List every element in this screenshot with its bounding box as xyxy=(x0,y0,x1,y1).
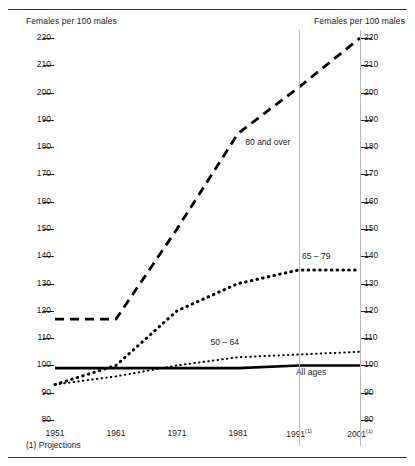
chart-plot-area: 2202202102102002001901901801801701701601… xyxy=(55,38,360,420)
chart-series-layer xyxy=(55,38,360,420)
right-axis-caption: Females per 100 males xyxy=(314,16,405,26)
y-tick-label-l-130: 130 xyxy=(37,279,51,288)
chart-footnote: (1) Projections xyxy=(26,440,81,450)
y-tick-label-l-150: 150 xyxy=(37,224,51,233)
left-axis-caption: Females per 100 males xyxy=(26,16,117,26)
y-tick-label-l-120: 120 xyxy=(37,306,51,315)
y-tick-label-r-220: 220 xyxy=(364,33,378,42)
y-tick-label-l-110: 110 xyxy=(37,333,51,342)
series-label-all-ages: All ages xyxy=(296,367,326,377)
series-label-80-and-over: 80 and over xyxy=(245,137,290,147)
y-tick-label-r-140: 140 xyxy=(364,251,378,260)
reference-line-1991 xyxy=(299,30,300,446)
y-tick-label-r-90: 90 xyxy=(364,388,373,397)
y-tick-label-l-170: 170 xyxy=(37,169,51,178)
y-tick-label-r-80: 80 xyxy=(364,415,373,424)
series-line-80-and-over xyxy=(55,38,360,319)
y-tick-label-l-200: 200 xyxy=(37,88,51,97)
y-tick-label-r-190: 190 xyxy=(364,115,378,124)
x-tick-label-1961: 1961 xyxy=(107,428,126,438)
y-tick-label-r-200: 200 xyxy=(364,88,378,97)
y-tick-label-r-180: 180 xyxy=(364,142,378,151)
y-tick-label-r-150: 150 xyxy=(364,224,378,233)
y-tick-label-l-190: 190 xyxy=(37,115,51,124)
x-tick-label-1971: 1971 xyxy=(168,428,187,438)
series-label-50-64: 50 – 64 xyxy=(211,337,239,347)
reference-line-2001 xyxy=(360,30,361,446)
y-tick-label-l-160: 160 xyxy=(37,197,51,206)
series-label-65-79: 65 – 79 xyxy=(302,251,330,261)
y-tick-label-r-170: 170 xyxy=(364,169,378,178)
y-tick-label-r-100: 100 xyxy=(364,360,378,369)
y-tick-label-l-140: 140 xyxy=(37,251,51,260)
y-tick-label-l-80: 80 xyxy=(42,415,51,424)
y-tick-label-r-210: 210 xyxy=(364,60,378,69)
y-tick-label-l-220: 220 xyxy=(37,33,51,42)
x-tick-label-1981: 1981 xyxy=(229,428,248,438)
x-tick-label-1951: 1951 xyxy=(46,428,65,438)
y-tick-label-l-90: 90 xyxy=(42,388,51,397)
y-tick-label-r-110: 110 xyxy=(364,333,378,342)
y-tick-label-r-160: 160 xyxy=(364,197,378,206)
y-tick-label-r-130: 130 xyxy=(364,279,378,288)
bottom-divider xyxy=(8,457,407,458)
y-tick-label-r-120: 120 xyxy=(364,306,378,315)
y-tick-label-l-180: 180 xyxy=(37,142,51,151)
y-tick-label-l-100: 100 xyxy=(37,360,51,369)
top-divider xyxy=(8,9,407,10)
y-tick-label-l-210: 210 xyxy=(37,60,51,69)
